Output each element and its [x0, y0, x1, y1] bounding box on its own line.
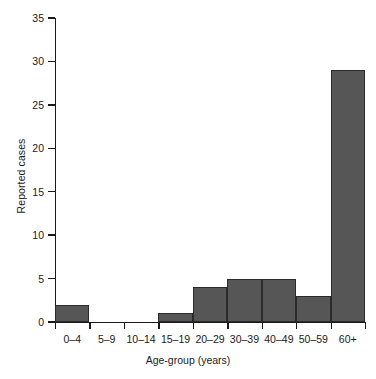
x-axis-tick	[158, 322, 159, 329]
y-axis-tick-label: 30	[4, 56, 44, 67]
bar	[158, 313, 192, 322]
x-axis-title: Age-group (years)	[0, 354, 376, 366]
bar-chart: Reported cases 05101520253035 0–45–910–1…	[0, 0, 376, 379]
x-axis-tick	[89, 322, 90, 329]
y-axis-tick	[48, 234, 55, 235]
bar	[296, 296, 330, 322]
y-axis-tick	[48, 104, 55, 105]
y-axis-tick-label: 25	[4, 100, 44, 111]
x-axis-tick-label: 0–4	[63, 333, 81, 345]
bar	[55, 305, 89, 322]
x-axis-tick-label: 60+	[339, 333, 357, 345]
bar	[193, 287, 227, 322]
y-axis-tick-label: 15	[4, 187, 44, 198]
x-axis-tick	[124, 322, 125, 329]
x-axis-tick	[331, 322, 332, 329]
x-axis-tick	[296, 322, 297, 329]
x-axis-tick	[55, 322, 56, 329]
y-axis-tick-label: 20	[4, 143, 44, 154]
y-axis-tick-label: 10	[4, 230, 44, 241]
x-axis-tick-label: 30–39	[230, 333, 259, 345]
x-axis-tick	[365, 322, 366, 329]
plot-area	[55, 18, 365, 322]
y-axis-tick-label: 35	[4, 13, 44, 24]
y-axis-tick-label: 5	[4, 274, 44, 285]
bar	[227, 279, 261, 322]
x-axis-tick	[227, 322, 228, 329]
y-axis-tick	[48, 17, 55, 18]
x-axis-tick-label: 15–19	[161, 333, 190, 345]
y-axis-tick	[48, 321, 55, 322]
bar	[262, 279, 296, 322]
x-axis-tick-label: 40–49	[264, 333, 293, 345]
y-axis-tick	[48, 191, 55, 192]
bar	[331, 70, 365, 322]
y-axis-tick	[48, 61, 55, 62]
y-axis-tick	[48, 148, 55, 149]
x-axis-tick-label: 5–9	[98, 333, 116, 345]
x-axis-tick-label: 20–29	[195, 333, 224, 345]
x-axis-tick	[193, 322, 194, 329]
x-axis-tick-label: 10–14	[127, 333, 156, 345]
x-axis-tick	[262, 322, 263, 329]
y-axis-tick-label: 0	[4, 317, 44, 328]
x-axis-tick-label: 50–59	[299, 333, 328, 345]
y-axis-tick	[48, 278, 55, 279]
